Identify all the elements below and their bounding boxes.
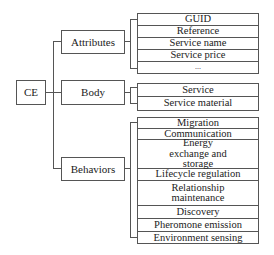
- list-item: Discovery: [138, 206, 258, 219]
- bracket-behaviors: [130, 122, 131, 238]
- connector-trunk: [53, 41, 54, 169]
- branch-label-body: Body: [81, 87, 105, 98]
- bracket-attributes-top: [130, 19, 137, 20]
- list-item: Lifecycle regulation: [138, 169, 258, 181]
- connector-behaviors: [53, 168, 61, 169]
- branch-node-attributes: Attributes: [61, 30, 125, 54]
- bracket-behaviors-top: [130, 122, 137, 123]
- list-item: Energy exchange and storage: [138, 140, 258, 169]
- bracket-body: [130, 87, 131, 104]
- bracket-attributes-bottom: [130, 68, 137, 69]
- list-item: Service price: [138, 50, 258, 62]
- root-label: CE: [24, 87, 38, 98]
- branch-node-body: Body: [61, 80, 125, 105]
- branch-label-behaviors: Behaviors: [71, 164, 116, 175]
- list-item: Service: [138, 84, 258, 97]
- root-node-ce: CE: [16, 80, 46, 105]
- behaviors-list: Migration Communication Energy exchange …: [137, 117, 259, 244]
- list-item: ...: [138, 62, 258, 73]
- branch-node-behaviors: Behaviors: [61, 157, 125, 181]
- bracket-behaviors-bottom: [130, 237, 137, 238]
- branch-label-attributes: Attributes: [71, 37, 115, 48]
- bracket-attributes: [130, 19, 131, 69]
- list-item: Relationship maintenance: [138, 181, 258, 206]
- list-item: Environment sensing: [138, 232, 258, 244]
- list-item: Service name: [138, 38, 258, 50]
- body-list: Service Service material: [137, 83, 259, 111]
- list-item: Service material: [138, 97, 258, 110]
- list-item: Reference: [138, 26, 258, 38]
- list-item: Pheromone emission: [138, 219, 258, 232]
- attributes-list: GUID Reference Service name Service pric…: [137, 13, 259, 74]
- connector-attributes: [53, 41, 61, 42]
- bracket-body-top: [130, 87, 137, 88]
- list-item: GUID: [138, 14, 258, 26]
- bracket-body-bottom: [130, 103, 137, 104]
